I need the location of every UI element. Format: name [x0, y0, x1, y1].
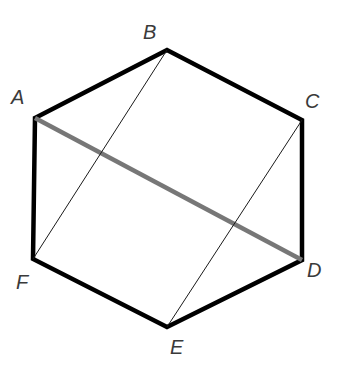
diagonal-AD [35, 118, 302, 260]
vertex-label-B: B [143, 21, 156, 43]
diagonal-BF [33, 50, 167, 259]
vertex-label-A: A [10, 86, 24, 108]
vertex-label-C: C [305, 90, 320, 112]
diagram-canvas: A B C D E F [0, 0, 345, 373]
vertex-label-F: F [16, 271, 30, 293]
vertex-label-E: E [170, 336, 184, 358]
vertex-label-D: D [307, 259, 321, 281]
hexagon-diagram: A B C D E F [0, 0, 345, 373]
